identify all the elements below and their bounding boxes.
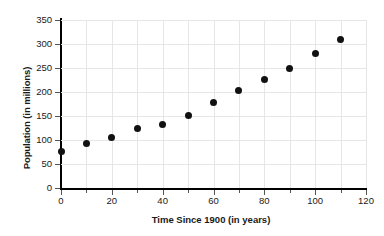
data-point [58, 148, 65, 155]
y-tick-mark [55, 116, 60, 117]
y-tick-label: 350 [12, 15, 52, 25]
y-tick-label: 250 [12, 63, 52, 73]
gridline-vertical-minor [239, 20, 240, 188]
y-tick-label: 200 [12, 87, 52, 97]
gridline-vertical [163, 20, 164, 188]
y-tick-label: 50 [12, 159, 52, 169]
y-tick-mark [55, 92, 60, 93]
x-tick-mark-minor [341, 190, 342, 193]
data-point [108, 134, 115, 141]
gridline-vertical [264, 20, 265, 188]
x-tick-label: 20 [92, 196, 132, 206]
x-tick-label: 0 [41, 196, 81, 206]
gridline-vertical-minor [86, 20, 87, 188]
x-tick-label: 40 [143, 196, 183, 206]
x-tick-label: 80 [244, 196, 284, 206]
gridline-vertical-minor [290, 20, 291, 188]
y-tick-mark [55, 20, 60, 21]
y-tick-mark [55, 164, 60, 165]
gridline-vertical [315, 20, 316, 188]
y-tick-mark [55, 140, 60, 141]
x-tick-mark-minor [86, 190, 87, 193]
x-tick-mark-minor [290, 190, 291, 193]
y-tick-label: 300 [12, 39, 52, 49]
x-tick-label: 100 [295, 196, 335, 206]
data-point [261, 76, 268, 83]
y-tick-label: 0 [12, 183, 52, 193]
gridline-vertical [112, 20, 113, 188]
x-tick-label: 60 [194, 196, 234, 206]
x-tick-mark-minor [239, 190, 240, 193]
data-point [185, 112, 192, 119]
y-tick-mark [55, 188, 60, 189]
data-point [210, 99, 217, 106]
y-tick-label: 150 [12, 111, 52, 121]
y-tick-mark [55, 44, 60, 45]
x-tick-mark-minor [137, 190, 138, 193]
gridline-vertical-minor [137, 20, 138, 188]
x-tick-label: 120 [346, 196, 384, 206]
x-axis-title: Time Since 1900 (in years) [56, 214, 366, 225]
scatter-chart: Population (in millions) 050100150200250… [0, 0, 384, 236]
gridline-vertical [366, 20, 367, 188]
gridline-vertical-minor [188, 20, 189, 188]
gridline-vertical-minor [341, 20, 342, 188]
data-point [312, 50, 319, 57]
y-tick-mark [55, 68, 60, 69]
y-tick-label: 100 [12, 135, 52, 145]
x-tick-mark-minor [188, 190, 189, 193]
